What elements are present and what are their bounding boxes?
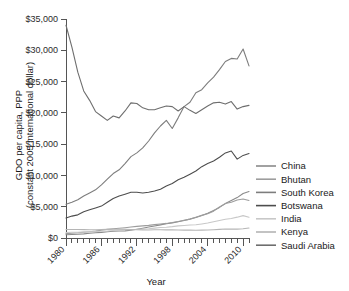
line-chart: GDO per capita, PPP (constant 2005 inter…: [0, 0, 349, 291]
legend-label-saudi-arabia: Saudi Arabia: [281, 240, 336, 251]
y-tick-label: $30,000: [25, 45, 58, 55]
legend-label-india: India: [281, 213, 302, 224]
legend-label-china: China: [281, 160, 307, 171]
legend-label-south-korea: South Korea: [281, 187, 335, 198]
legend-label-botswana: Botswana: [281, 200, 323, 211]
chart-legend: ChinaBhutanSouth KoreaBotswanaIndiaKenya…: [256, 160, 336, 250]
chart-figure: GDO per capita, PPP (constant 2005 inter…: [0, 0, 349, 291]
x-tick-label: 1992: [116, 244, 137, 265]
legend-label-bhutan: Bhutan: [281, 174, 311, 185]
y-tick-label: $35,000: [25, 14, 58, 24]
legend-label-kenya: Kenya: [281, 226, 309, 237]
y-tick-label: $20,000: [25, 108, 58, 118]
x-tick-label: 1998: [151, 244, 172, 265]
y-axis-title-line1: GDO per capita, PPP: [13, 90, 24, 180]
series-line-saudi-arabia: [66, 25, 249, 120]
x-tick-label: 2004: [187, 244, 208, 265]
series-line-botswana: [66, 151, 249, 218]
series-line-south-korea: [66, 49, 249, 204]
x-tick-label: 1980: [45, 244, 66, 265]
series-line-bhutan: [66, 199, 249, 234]
series-group: [66, 25, 249, 234]
y-tick-label: $5,000: [30, 202, 58, 212]
y-tick-label: $25,000: [25, 77, 58, 87]
x-axis-title: Year: [146, 276, 165, 287]
x-tick-label: 1986: [81, 244, 102, 265]
y-tick-label: $15,000: [25, 139, 58, 149]
x-tick-label: 2010: [222, 244, 243, 265]
y-tick-label: $0: [48, 233, 58, 243]
x-axis-ticks: 198019861992199820042010: [45, 238, 249, 266]
y-tick-label: $10,000: [25, 171, 58, 181]
